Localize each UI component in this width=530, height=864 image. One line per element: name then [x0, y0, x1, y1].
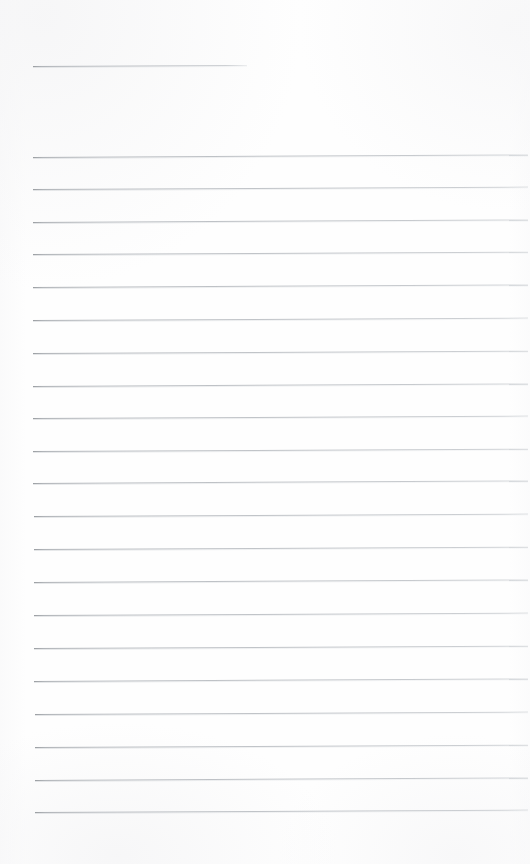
ruled-line-18 — [35, 712, 528, 715]
ruled-line-8 — [33, 383, 528, 387]
ruled-line-12 — [34, 514, 528, 517]
ruled-line-5 — [33, 284, 528, 288]
ruled-line-10 — [33, 449, 528, 452]
scanned-notepad-page — [0, 0, 530, 864]
ruled-line-13 — [34, 547, 528, 550]
ruled-line-20 — [35, 777, 528, 781]
ruled-line-16 — [34, 646, 528, 649]
ruled-line-6 — [33, 318, 528, 321]
ruled-line-7 — [33, 351, 528, 354]
ruled-line-1 — [33, 154, 528, 158]
ruled-line-9 — [33, 416, 528, 419]
ruled-line-4 — [33, 252, 528, 255]
ruled-line-14 — [34, 579, 528, 583]
ruled-line-2 — [33, 187, 528, 190]
ruled-line-15 — [34, 613, 528, 616]
title-underline — [33, 65, 247, 67]
ruled-line-3 — [33, 219, 528, 223]
ruled-line-11 — [33, 480, 528, 484]
paper-texture — [0, 0, 530, 864]
ruled-line-17 — [34, 678, 528, 682]
ruled-line-21 — [35, 810, 528, 813]
ruled-line-19 — [35, 745, 528, 748]
